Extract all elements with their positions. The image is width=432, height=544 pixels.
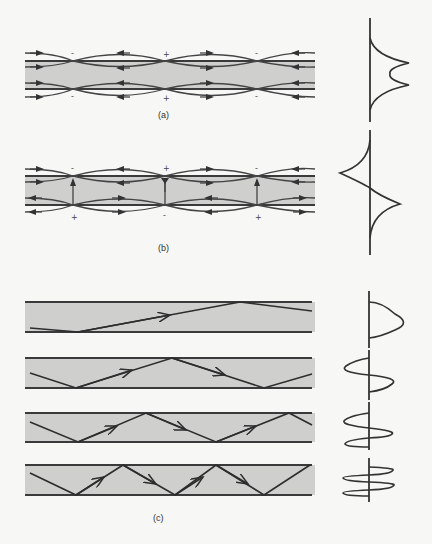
svg-text:+: + (255, 213, 262, 222)
panel-b-label: (b) (158, 243, 169, 253)
waveguide-mode-figure: - + - - + - (a) (0, 0, 432, 544)
svg-text:-: - (163, 211, 166, 220)
panel-a-label: (a) (158, 110, 169, 120)
panel-c-label: (c) (153, 513, 164, 523)
ray-mode-3 (25, 465, 315, 495)
svg-text:+: + (71, 213, 78, 222)
ray-mode-0 (25, 302, 315, 332)
slab-b (25, 176, 315, 205)
svg-text:-: - (255, 92, 258, 101)
field-profile-mode-2 (344, 402, 393, 450)
svg-text:+: + (163, 94, 170, 103)
field-profile-mode-0 (369, 291, 404, 348)
field-profile-a (370, 18, 409, 122)
ray-mode-1 (25, 358, 315, 388)
field-profile-mode-3 (343, 458, 394, 502)
field-profile-mode-1 (344, 350, 393, 400)
ray-mode-2 (25, 413, 315, 442)
svg-text:-: - (255, 164, 258, 173)
svg-text:-: - (71, 92, 74, 101)
panel-c: (c) (25, 291, 404, 523)
panel-b: - + - + - + (b) (25, 130, 400, 255)
svg-text:+: + (163, 50, 170, 59)
svg-text:-: - (71, 49, 74, 58)
svg-text:-: - (71, 164, 74, 173)
panel-a: - + - - + - (a) (25, 18, 409, 122)
svg-text:-: - (255, 49, 258, 58)
field-profile-b (340, 130, 400, 255)
svg-text:+: + (163, 164, 170, 173)
